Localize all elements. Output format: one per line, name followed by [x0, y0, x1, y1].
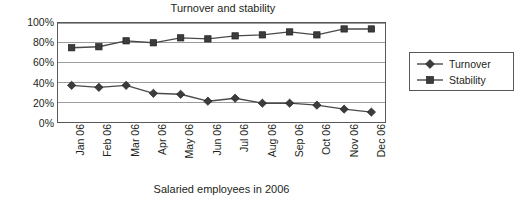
y-tick-label: 80%: [14, 37, 54, 48]
square-marker-icon: [205, 36, 211, 42]
x-tick-label: Sep 06: [294, 124, 305, 157]
y-tick-label: 60%: [14, 57, 54, 68]
diamond-marker-icon: [176, 90, 184, 98]
diamond-marker-icon: [340, 105, 348, 113]
x-tick-label: Mar 06: [130, 124, 141, 157]
diamond-marker-icon: [416, 57, 444, 71]
x-tick-label: May 06: [184, 124, 195, 158]
x-tick-label: Jun 06: [212, 124, 223, 156]
square-marker-icon: [232, 33, 238, 39]
legend-label: Turnover: [444, 58, 491, 70]
series-stability: [68, 26, 374, 51]
plot-area: [57, 22, 386, 123]
square-marker-icon: [314, 32, 320, 38]
x-tick-label: Apr 06: [157, 124, 168, 155]
diamond-marker-icon: [285, 99, 293, 107]
legend-label: Stability: [444, 74, 486, 86]
legend-entry-turnover[interactable]: Turnover: [410, 56, 513, 72]
diamond-marker-icon: [95, 83, 103, 91]
legend-entry-stability[interactable]: Stability: [410, 72, 513, 88]
x-tick-label: Feb 06: [102, 124, 113, 157]
y-tick-label: 100%: [14, 17, 54, 28]
x-tick-label: Jan 06: [75, 124, 86, 156]
square-marker-icon: [177, 35, 183, 41]
x-axis-caption: Salaried employees in 2006: [57, 182, 386, 196]
x-tick-label: Dec 06: [376, 124, 387, 157]
chart-legend: TurnoverStability: [409, 52, 514, 91]
chart-figure: Turnover and stability 0%20%40%60%80%100…: [0, 0, 523, 208]
square-marker-icon: [259, 32, 265, 38]
x-tick-label: Oct 06: [321, 124, 332, 155]
square-marker-icon: [341, 26, 347, 32]
square-marker-icon: [96, 44, 102, 50]
series-line: [72, 29, 372, 48]
x-axis: Jan 06Feb 06Mar 06Apr 06May 06Jun 06Jul …: [57, 124, 386, 176]
plot-svg: [58, 23, 385, 122]
y-tick-label: 40%: [14, 77, 54, 88]
square-marker-icon: [68, 45, 74, 51]
y-tick-label: 0%: [14, 118, 54, 129]
square-marker-icon: [123, 38, 129, 44]
chart-title: Turnover and stability: [58, 1, 388, 15]
x-tick-label: Jul 06: [239, 124, 250, 152]
diamond-marker-icon: [231, 94, 239, 102]
diamond-marker-icon: [204, 97, 212, 105]
diamond-marker-icon: [258, 99, 266, 107]
x-tick-label: Nov 06: [349, 124, 360, 157]
x-tick-label: Aug 06: [267, 124, 278, 157]
series-turnover: [67, 81, 375, 116]
diamond-marker-icon: [367, 108, 375, 116]
square-marker-icon: [150, 40, 156, 46]
y-tick-label: 20%: [14, 97, 54, 108]
y-axis: 0%20%40%60%80%100%: [14, 22, 54, 123]
square-marker-icon: [286, 29, 292, 35]
series-line: [72, 85, 372, 112]
square-marker-icon: [368, 26, 374, 32]
diamond-marker-icon: [149, 89, 157, 97]
square-marker-icon: [416, 73, 444, 87]
